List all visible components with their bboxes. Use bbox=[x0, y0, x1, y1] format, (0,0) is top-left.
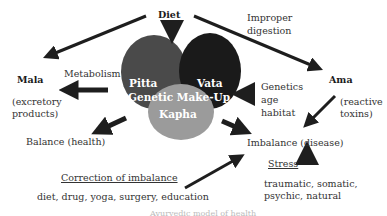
arrow-doshas-to-balance bbox=[98, 118, 126, 131]
diet-label: Diet bbox=[158, 9, 180, 21]
vata-label: Vata bbox=[197, 77, 223, 89]
pitta-label: Pitta bbox=[129, 77, 157, 89]
arrow-ama-to-imbalance bbox=[307, 96, 335, 124]
arrow-correction-to-imbalance bbox=[185, 157, 240, 188]
improper-label-1: Improper bbox=[247, 12, 292, 24]
arrow-doshas-to-imbalance bbox=[222, 121, 245, 131]
ayurveda-diagram: Pitta Vata Genetic Make-Up Kapha Diet Im… bbox=[0, 0, 387, 216]
kapha-label: Kapha bbox=[159, 108, 197, 120]
stress-types-2: psychic, natural bbox=[264, 190, 341, 202]
ama-label: Ama bbox=[329, 74, 353, 86]
genetic-makeup-label: Genetic Make-Up bbox=[128, 91, 230, 103]
metabolism-label: Metabolism bbox=[64, 68, 121, 80]
figure-caption: Ayurvedic model of health bbox=[150, 209, 256, 216]
stress-label: Stress bbox=[268, 158, 298, 170]
stress-types-1: traumatic, somatic, bbox=[264, 178, 358, 190]
imbalance-label: Imbalance (disease) bbox=[247, 137, 343, 149]
correction-methods-label: diet, drug, yoga, surgery, education bbox=[37, 191, 209, 203]
genetics-label: Genetics bbox=[261, 81, 303, 93]
age-label: age bbox=[261, 94, 278, 106]
reactive-label-1: (reactive bbox=[340, 96, 383, 108]
correction-label: Correction of imbalance bbox=[61, 172, 178, 184]
mala-label: Mala bbox=[17, 74, 43, 86]
habitat-label: habitat bbox=[261, 107, 295, 119]
balance-label: Balance (health) bbox=[26, 136, 105, 148]
excretory-label-2: products) bbox=[12, 108, 58, 120]
improper-label-2: digestion bbox=[247, 25, 291, 37]
excretory-label-1: (excretory bbox=[12, 96, 62, 108]
reactive-label-2: toxins) bbox=[340, 108, 373, 120]
